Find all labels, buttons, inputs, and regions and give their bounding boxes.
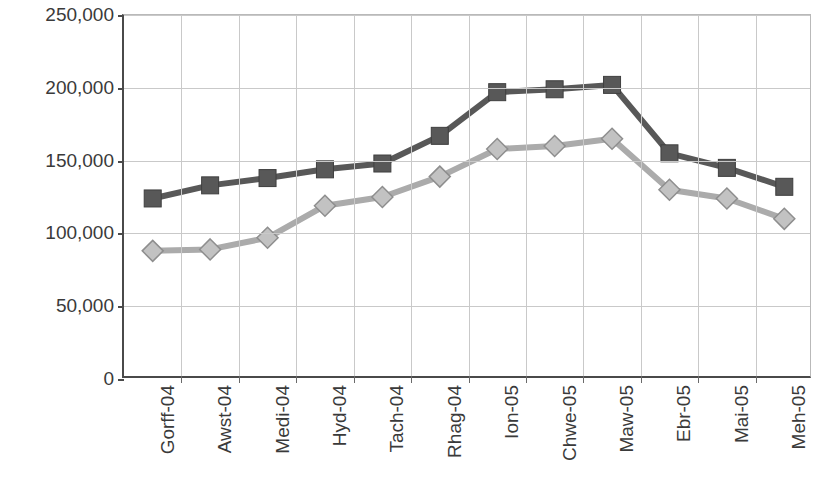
gridline-vertical: [411, 15, 412, 376]
gridline-horizontal: [124, 306, 810, 307]
plot-area: [122, 14, 811, 378]
x-axis-tick-label-text: Tach-04: [387, 385, 406, 453]
x-axis-tick-mark: [239, 376, 240, 383]
y-axis-tick-mark: [118, 306, 124, 308]
x-axis-tick-label: Chwe-05: [560, 385, 579, 461]
x-axis-tick-label-text: Awst-04: [215, 385, 234, 453]
x-axis-tick-label: Tach-04: [387, 385, 406, 453]
data-point-marker: [316, 161, 333, 178]
x-axis-tick-labels: Gorff-04Awst-04Medi-04Hyd-04Tach-04Rhag-…: [122, 385, 811, 488]
x-axis-tick-label: Maw-05: [617, 385, 636, 453]
y-axis-tick-mark: [118, 161, 124, 163]
data-point-marker: [372, 187, 393, 208]
x-axis-tick-label: Rhag-04: [445, 385, 464, 458]
x-axis-tick-label: Awst-04: [215, 385, 234, 453]
y-axis-tick-label: 0: [30, 369, 114, 388]
data-point-marker: [142, 240, 163, 261]
y-axis-tick-label: 150,000: [30, 150, 114, 169]
x-axis-tick-label: Ebr-05: [674, 385, 693, 442]
data-point-marker: [716, 188, 737, 209]
x-axis-tick-label-text: Ebr-05: [674, 385, 693, 442]
x-axis-tick-mark: [181, 376, 182, 383]
x-axis-tick-mark: [526, 376, 527, 383]
x-axis-tick-mark: [296, 376, 297, 383]
x-axis-tick-label-text: Maw-05: [617, 385, 636, 453]
data-point-marker: [431, 127, 448, 144]
y-axis-tick-mark: [118, 88, 124, 90]
x-axis-tick-mark: [469, 376, 470, 383]
x-axis-tick-label-text: Chwe-05: [560, 385, 579, 461]
x-axis-tick-label-text: Gorff-04: [158, 385, 177, 454]
x-axis-tick-label: Gorff-04: [158, 385, 177, 454]
data-point-marker: [544, 136, 565, 157]
x-axis-tick-label-text: Rhag-04: [445, 385, 464, 458]
data-point-marker: [774, 208, 795, 229]
x-axis-tick-mark: [756, 376, 757, 383]
y-axis-tick-mark: [118, 233, 124, 235]
gridline-vertical: [756, 15, 757, 376]
y-axis-tick-label: 250,000: [30, 5, 114, 24]
y-axis-tick-mark: [118, 379, 124, 381]
x-axis-tick-mark: [411, 376, 412, 383]
gridline-vertical: [239, 15, 240, 376]
x-axis-tick-label: Meh-05: [789, 385, 808, 449]
y-axis-tick-label: 200,000: [30, 77, 114, 96]
x-axis-tick-mark: [354, 376, 355, 383]
gridline-horizontal: [124, 233, 810, 234]
data-point-marker: [718, 159, 735, 176]
data-point-marker: [200, 239, 221, 260]
gridline-vertical: [526, 15, 527, 376]
x-axis-tick-label: Hyd-04: [330, 385, 349, 446]
data-point-marker: [202, 177, 219, 194]
gridline-horizontal: [124, 161, 810, 162]
x-axis-tick-label-text: Mai-05: [732, 385, 751, 443]
gridline-horizontal: [124, 15, 810, 16]
y-axis-tick-mark: [118, 15, 124, 17]
x-axis-tick-label-text: Hyd-04: [330, 385, 349, 446]
x-axis-tick-mark: [583, 376, 584, 383]
y-axis-tick-label: 100,000: [30, 223, 114, 242]
gridline-vertical: [469, 15, 470, 376]
x-axis-tick-label-text: Meh-05: [789, 385, 808, 449]
data-point-marker: [259, 170, 276, 187]
x-axis-tick-label: Ion-05: [502, 385, 521, 439]
x-axis-tick-label: Mai-05: [732, 385, 751, 443]
x-axis-tick-mark: [698, 376, 699, 383]
gridline-vertical: [296, 15, 297, 376]
gridline-vertical: [354, 15, 355, 376]
x-axis-tick-mark: [641, 376, 642, 383]
data-point-marker: [546, 81, 563, 98]
y-axis-tick-labels: 050,000100,000150,000200,000250,000: [30, 0, 114, 488]
gridline-vertical: [641, 15, 642, 376]
data-point-marker: [429, 166, 450, 187]
data-point-marker: [144, 190, 161, 207]
x-axis-tick-label: Medi-04: [273, 385, 292, 454]
gridline-vertical: [181, 15, 182, 376]
gridline-vertical: [698, 15, 699, 376]
data-point-marker: [661, 145, 678, 162]
data-point-marker: [776, 178, 793, 195]
gridline-horizontal: [124, 88, 810, 89]
x-axis-tick-label-text: Medi-04: [273, 385, 292, 454]
data-point-marker: [489, 84, 506, 101]
x-axis-tick-label-text: Ion-05: [502, 385, 521, 439]
y-axis-tick-label: 50,000: [30, 296, 114, 315]
data-point-marker: [374, 155, 391, 172]
gridline-vertical: [583, 15, 584, 376]
chart-page: Achosion o falaria 050,000100,000150,000…: [0, 0, 821, 488]
data-point-marker: [604, 76, 621, 93]
data-point-marker: [487, 138, 508, 159]
